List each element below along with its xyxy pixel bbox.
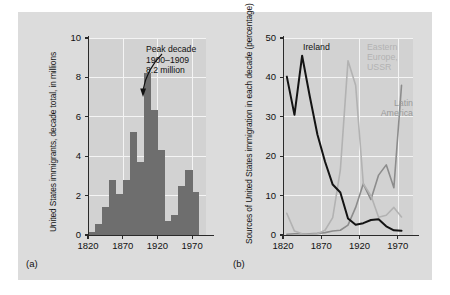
panel-a-y-axis-line bbox=[88, 36, 89, 237]
panel-a-x-tick-label: 1970 bbox=[175, 241, 209, 251]
panel-a-y-tick bbox=[85, 156, 88, 157]
panel-b-y-tick bbox=[280, 37, 283, 38]
panel-a-x-axis-line bbox=[88, 235, 214, 236]
panel-a-x-tick-label: 1920 bbox=[140, 241, 174, 251]
panel-a-y-tick bbox=[85, 195, 88, 196]
panel-a-x-tick-label: 1870 bbox=[106, 241, 140, 251]
annotation-line-3: 8.2 million bbox=[146, 65, 196, 76]
panel-b-x-axis-line bbox=[283, 235, 419, 236]
panel-b-y-tick-label: 10 bbox=[254, 191, 276, 201]
panel-b-y-tick-label: 50 bbox=[254, 33, 276, 43]
panel-a-x-tick bbox=[192, 236, 193, 239]
annotation-line-2: 1900–1909 bbox=[146, 55, 196, 66]
panel-a-y-tick-label: 2 bbox=[59, 191, 81, 201]
series-label-latin-line-2: America bbox=[373, 108, 413, 118]
series-label-eastern-line-1: Eastern bbox=[367, 42, 398, 52]
panel-b-y-tick-label: 40 bbox=[254, 72, 276, 82]
panel-a-y-tick-label: 8 bbox=[59, 72, 81, 82]
panel-b-y-axis-title: Sources of United States immigration in … bbox=[244, 38, 254, 244]
panel-a-x-tick-label: 1820 bbox=[71, 241, 105, 251]
panel-a-x-tick bbox=[87, 236, 88, 239]
series-line-ireland bbox=[287, 56, 402, 231]
panel-b-x-tick-label: 1870 bbox=[304, 241, 338, 251]
series-label-eastern-line-3: USSR bbox=[367, 62, 398, 72]
series-label-latin-line-1: Latin bbox=[373, 98, 413, 108]
panel-a-y-tick-label: 0 bbox=[59, 230, 81, 240]
panel-b-caption: (b) bbox=[233, 258, 245, 269]
panel-a-y-tick bbox=[85, 77, 88, 78]
panel-b-y-tick bbox=[280, 116, 283, 117]
panel-a-y-axis-title: United States immigrants, decade total, … bbox=[48, 44, 58, 240]
panel-b-y-tick-label: 30 bbox=[254, 112, 276, 122]
panel-b-y-tick bbox=[280, 195, 283, 196]
panel-b-x-tick bbox=[397, 236, 398, 239]
panel-a-x-tick bbox=[122, 236, 123, 239]
figure-panel-group: United States immigrants, decade total, … bbox=[18, 12, 432, 280]
panel-b-y-axis-line bbox=[283, 36, 284, 237]
panel-b-x-tick-label: 1920 bbox=[342, 241, 376, 251]
panel-a-y-tick-label: 6 bbox=[59, 112, 81, 122]
panel-a-y-tick-label: 10 bbox=[59, 33, 81, 43]
annotation-line-1: Peak decade bbox=[146, 44, 196, 55]
series-label-eastern-line-2: Europe, bbox=[367, 52, 398, 62]
bar bbox=[192, 192, 199, 235]
panel-a-y-tick-label: 4 bbox=[59, 151, 81, 161]
panel-b-x-tick bbox=[359, 236, 360, 239]
panel-a-y-tick bbox=[85, 37, 88, 38]
panel-b-y-tick bbox=[280, 156, 283, 157]
panel-b-immigration-sources-line-chart: Sources of United States immigration in … bbox=[225, 12, 432, 280]
panel-b-x-tick bbox=[282, 236, 283, 239]
panel-a-caption: (a) bbox=[26, 258, 38, 269]
panel-b-y-tick-label: 0 bbox=[254, 230, 276, 240]
panel-b-x-tick-label: 1970 bbox=[381, 241, 415, 251]
panel-b-x-tick bbox=[321, 236, 322, 239]
panel-b-y-tick-label: 20 bbox=[254, 151, 276, 161]
series-label-eastern-europe-ussr: Eastern Europe, USSR bbox=[367, 42, 398, 73]
series-label-ireland: Ireland bbox=[303, 42, 330, 52]
panel-a-x-tick bbox=[157, 236, 158, 239]
panel-b-x-tick-label: 1820 bbox=[266, 241, 300, 251]
panel-a-y-tick bbox=[85, 116, 88, 117]
panel-a-immigrants-bar-chart: United States immigrants, decade total, … bbox=[18, 12, 225, 280]
panel-b-y-tick bbox=[280, 77, 283, 78]
series-label-latin-america: Latin America bbox=[373, 98, 413, 118]
peak-decade-annotation: Peak decade 1900–1909 8.2 million bbox=[146, 44, 196, 76]
